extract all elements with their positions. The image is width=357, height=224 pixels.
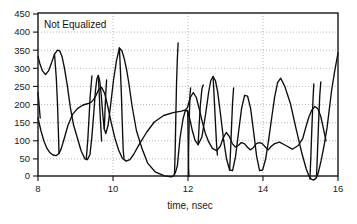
y-tick-marks [33, 14, 38, 176]
x-tick-label-14: 14 [258, 183, 269, 194]
y-tick-label-400: 400 [14, 26, 30, 37]
y-tick-label-450: 450 [14, 8, 30, 19]
y-tick-label-0: 0 [25, 170, 30, 181]
eye-diagram-plot: 0 50 100 150 200 250 300 350 400 450 8 1… [0, 0, 357, 224]
y-tick-label-350: 350 [14, 45, 30, 56]
x-tick-label-16: 16 [333, 183, 344, 194]
x-axis-title: time, nsec [167, 200, 213, 211]
x-tick-labels: 8 10 12 14 16 [35, 183, 343, 194]
x-tick-label-8: 8 [35, 183, 40, 194]
y-tick-labels: 0 50 100 150 200 250 300 350 400 450 [14, 8, 30, 181]
y-tick-label-300: 300 [14, 63, 30, 74]
y-tick-label-50: 50 [19, 153, 30, 164]
y-tick-label-150: 150 [14, 117, 30, 128]
x-tick-marks [38, 176, 338, 181]
x-tick-label-12: 12 [183, 183, 194, 194]
chart-figure: 0 50 100 150 200 250 300 350 400 450 8 1… [0, 0, 357, 224]
plot-annotation-not-equalized: Not Equalized [44, 19, 106, 30]
y-tick-label-200: 200 [14, 99, 30, 110]
x-tick-label-10: 10 [108, 183, 119, 194]
y-tick-label-100: 100 [14, 135, 30, 146]
y-tick-label-250: 250 [14, 81, 30, 92]
